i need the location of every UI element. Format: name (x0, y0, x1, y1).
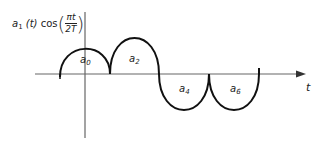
x-axis-label: t (306, 82, 310, 93)
fraction-numerator: πt (65, 13, 76, 24)
region-label-a4: a4 (179, 84, 190, 96)
y-axis-label: a1 (t) cos(πt2T) (12, 13, 84, 34)
left-paren: ( (58, 12, 66, 36)
right-paren: ) (77, 12, 85, 36)
y-label-argument: (t) (26, 18, 38, 29)
label-sub: 2 (135, 58, 139, 66)
t-axis-arrowhead (296, 71, 306, 78)
region-label-a6: a6 (230, 84, 241, 96)
label-sub: 0 (86, 59, 90, 67)
label-sub: 6 (236, 88, 240, 96)
fraction-denominator: 2T (65, 24, 76, 34)
y-label-subscript: 1 (18, 23, 22, 31)
y-label-function: cos (41, 18, 58, 29)
region-label-a0: a0 (80, 55, 91, 67)
label-sub: 4 (185, 88, 189, 96)
y-label-fraction: πt2T (65, 13, 76, 34)
region-label-a2: a2 (129, 54, 140, 66)
